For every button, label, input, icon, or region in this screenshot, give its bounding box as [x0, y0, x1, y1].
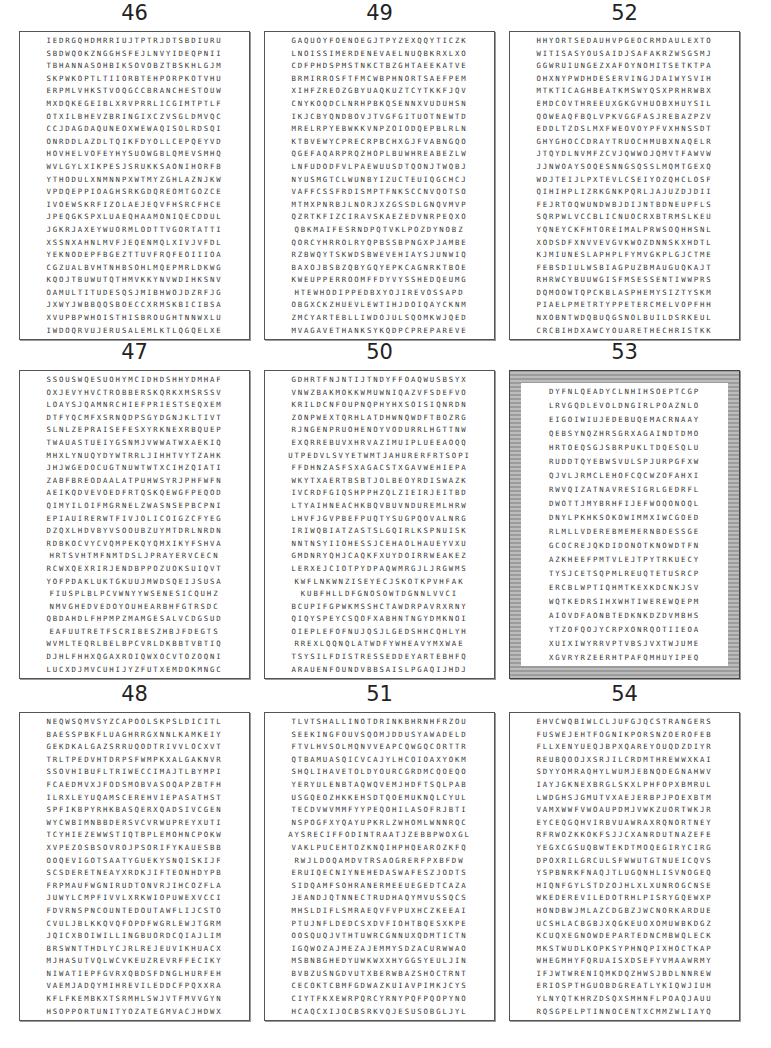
grid-row: RFRWOZKKOKFSJJCXANRDUTNAZEFE	[516, 831, 733, 838]
grid-row: LWDGHSJGMUTVXAEJERBPJPOEXBTM	[516, 794, 733, 801]
grid-row: GGWRUIUNGEZXAFOYNOMITSETKTPA	[516, 62, 733, 69]
grid-row: DPOXRILGRCULSFWWUTGTNUEICQVS	[516, 857, 733, 864]
grid-row: WHEGMHYFQRUAISXDSEFYVMAAWRMY	[516, 957, 733, 964]
grid-row: BRSWNTTHDLYCJRLREJEUVIKHUACX	[26, 945, 243, 952]
grid-row: XVPEZOSBSOVROJPSORIFYKAUESBB	[26, 844, 243, 851]
grid-row: TLVTSHALLINOTDRINKBHRNHFRZOU	[271, 718, 488, 725]
letter-grid: NEQWSQMVSYZCAPOOLSKPSLDICITLBAESSPBKFLUA…	[26, 718, 243, 1015]
grid-row: IGQWOZAJMEZAJEMMYSDZACURWWAO	[271, 945, 488, 952]
grid-row: OHXNYPWDHDESERVINGJDAIWYSVIH	[516, 75, 733, 82]
grid-row: GMDNRYQHJCAQKFXUYDOIRRWEAKEZ	[271, 552, 488, 559]
letter-grid-box: NEQWSQMVSYZCAPOOLSKPSLDICITLBAESSPBKFLUA…	[19, 712, 250, 1021]
grid-row: NMVGHEDVEDOYOUHEARBHFGTRSDC	[26, 603, 243, 610]
grid-row: GDHRTFNJNTIJTNDYFFOAQWUSBSYX	[271, 376, 488, 383]
grid-row: LHVFJGVPBEFPUQTYSUGPQOVALNRG	[271, 515, 488, 522]
grid-row: OXJEVYHVCTROBBERSKQRKXMSRSSV	[26, 389, 243, 396]
grid-row: SHQLIHAVETOLDYOURCGRDMCQOEQO	[271, 768, 488, 775]
puzzle-number: 51	[264, 682, 495, 706]
grid-row: FCAEDMVXJFODSMOBVASOQAPZBTFH	[26, 781, 243, 788]
grid-row: DTFYQCMFXSRNQDPSGYDGNJKLTIVT	[26, 414, 243, 421]
grid-row: HCAQCXIJOCBSRKVQJESUSOBGLJYL	[271, 1008, 488, 1015]
grid-row: FEJRTOQWUNDWBJDIJNTBDNEUPFLS	[516, 201, 733, 208]
grid-row: OIEPLEFOFNUJQSJLGEDSHHCQHLYH	[271, 628, 488, 635]
grid-row: KCUQXEGNOWDEPARTEDNCMBWQLECK	[516, 932, 733, 939]
grid-row: AEIKQDVEVOEDFRTQSKQEWGFPEQOD	[26, 489, 243, 496]
grid-row: HONDBWJMLAZCDGBZJWCNORKARDUE	[516, 907, 733, 914]
grid-row: QTBAMUASQICVCAJYLHCOIOAXYOKM	[271, 756, 488, 763]
grid-row: JHJWGEDOCUGTNUWTWTXCIHZQIATI	[26, 464, 243, 471]
letter-grid: EHVCWQBIWLCLJUFGJQCSTRANGERSFUSWEJEHTFOG…	[516, 718, 733, 1015]
grid-row: REUBQOOJXSRJILCRDMTHREWWXKAI	[516, 756, 733, 763]
grid-row: ZMCYARTEBLLIWDOJULSQOMKWJQED	[271, 314, 488, 321]
grid-row: SDYYOMRAQHYLWUMJEBNQDEGNAHWV	[516, 768, 733, 775]
grid-row: WDJTEIJLPXTEVLCSEIYOZQHCLOSF	[516, 176, 733, 183]
decorative-border-box: DYFNLQEADYCLNHIHSOEPTCGPLRVGQDLEVOLDNGIR…	[509, 370, 740, 679]
grid-row: QJVLJRMCLEHOFCQCWZOFAHXI	[526, 472, 723, 479]
grid-row: FIUSPLBLPCVWNYYWSENESICQUHZ	[26, 590, 243, 597]
letter-grid: DYFNLQEADYCLNHIHSOEPTCGPLRVGQDLEVOLDNGIR…	[526, 388, 723, 661]
grid-row: FEBSDIULWSBIAGPUZBMAUGUQKAJT	[516, 264, 733, 271]
grid-row: MJHASUTVQLWCVKEUZREVRFFECIKY	[26, 957, 243, 964]
puzzle-number: 50	[264, 340, 495, 364]
grid-row: ZONPWEXTQRHLATDHWNQWDFTBOZRG	[271, 414, 488, 421]
grid-row: WVLGYLXIKPESJSRUKKSAONIHORFB	[26, 163, 243, 170]
grid-row: AIOVDFAONBTEDKNKDZDVMBHS	[526, 612, 723, 619]
letter-grid-box: HHYORTSEDAUHVPGEOCRMDAULEXTOWITISASYOUSA…	[509, 31, 740, 340]
grid-row: QOWEAQFBQLVPKVGGFASJREBAZPZV	[516, 113, 733, 120]
grid-row: HTEWHODIPPEDBXYOJIREVOSSAPD	[271, 289, 488, 296]
grid-row: MTKTICAGHBEATKMSWYQSXPRHRWBX	[516, 87, 733, 94]
grid-row: JQICXBOIWILLINGBUORDCQIAJLIM	[26, 932, 243, 939]
letter-grid-box: SSOUSWQESUOHYMCIDHDSHHYDMHAFOXJEVYHVCTRO…	[19, 370, 250, 679]
puzzle-number: 47	[19, 340, 250, 364]
grid-row: QEBSYNQZHRSGRXAGAINDTDMO	[526, 430, 723, 437]
letter-grid: IEDRGQHDMRRIUJTPTRJDTSBDIURUSBDWQOKZNGGH…	[26, 37, 243, 334]
grid-row: RJNGENPRUOHENOYVODURRLHGTTNW	[271, 426, 488, 433]
grid-row: WKYTXAERTBSBTJOLBEOYRDISWAZK	[271, 477, 488, 484]
grid-row: RDBKOCVYCVQMPEKQYQMXIKYFSHVA	[26, 540, 243, 547]
grid-row: FUSWEJEHTFOGNIKPORSNZOEROFEB	[516, 731, 733, 738]
grid-row: SLNLZEPRAISEFESXYRKNEXRBQUEP	[26, 426, 243, 433]
grid-row: FLLXENYUEQJBPXQAREYOUQDZDIYR	[516, 743, 733, 750]
grid-row: FRPMAUFWGNIRUDTONVRJIHCOZFLA	[26, 882, 243, 889]
grid-row: NNTNSYIIOHESSJCEHAOLHAUEYVXU	[271, 540, 488, 547]
grid-row: TBHANNASOHBIKSOVOBZTBSKHLGJM	[26, 62, 243, 69]
grid-row: TWAUASTUEIYGSNMJVWWATWXAEKIQ	[26, 439, 243, 446]
grid-row: RREXLQQNQLATWDFYWHEAVYMXWAE	[271, 640, 488, 647]
grid-row: LERXEJCIOTPYDPAQWMRGJLJRGWMS	[271, 565, 488, 572]
grid-row: WKEDEREVILEDOTRHLPISRYGQEWXP	[516, 894, 733, 901]
grid-row: OAMULTITUDESQSJMIBHWOJDZRFJG	[26, 289, 243, 296]
grid-row: LOAYSJQAMNRCHIEFPRIESTSEQXEM	[26, 401, 243, 408]
grid-row: SEEKINGFOUVSQOMJDDUSYAWADELD	[271, 731, 488, 738]
grid-row: GHYGHOCCDRAYTRUOCHMUBXNAQELR	[516, 138, 733, 145]
grid-row: TYSJCETSQPMLREUQTETUSRCP	[526, 570, 723, 577]
grid-row: CDFPHDSPMSTNKCTBZGHTAEEKATVE	[271, 62, 488, 69]
grid-row: WITISASYOUSAIDJSAFAKRZWSGSMJ	[516, 50, 733, 57]
grid-row: QIQYSPEYCSQOFXABHNTNGYDMKNOI	[271, 615, 488, 622]
grid-row: VNWZBAKMOKKWMUWNIQAZVFSDEFVO	[271, 389, 488, 396]
grid-row: LUCXDJMVCUHIJYZFUTXEMDOKMNGC	[26, 666, 243, 673]
letter-grid: HHYORTSEDAUHVPGEOCRMDAULEXTOWITISASYOUSA…	[516, 37, 733, 334]
grid-row: JPEQGKSPXLUAEQHAAMONIQECDDUL	[26, 213, 243, 220]
grid-row: MHSLDIFLSMRAEQVFVPUXHCZKEEAI	[271, 907, 488, 914]
grid-row: CIYTFKXEWRPQRCYRNYPQFPQOPYNO	[271, 995, 488, 1002]
grid-row: JEANDJQTNNECTRUDHAQYMVUSSQCS	[271, 894, 488, 901]
grid-row: MHXLYNUQYDYWTRRLJIHHTVYTZAHK	[26, 452, 243, 459]
grid-row: KWEUPPERROOMFFDYVYSSHEDQEUMG	[271, 276, 488, 283]
grid-row: MVAGAVETHANKSYKQDPCPREPAREVE	[271, 327, 488, 334]
grid-row: VAEMJADQYMIHREVILEDDCFPQXXRA	[26, 982, 243, 989]
grid-row: JGKRJAXEYWUORMLODTTVGORTATTI	[26, 226, 243, 233]
grid-row: VPDQEPPIOAGHSRKGDQREOMTGOZCE	[26, 188, 243, 195]
grid-row: OTXILBHEVZBRINGIXCZVSGLDMVQC	[26, 113, 243, 120]
puzzle-number: 49	[264, 1, 495, 25]
grid-row: QBKMAIFESRNDPQTVKLPOZDYNOBZ	[271, 226, 488, 233]
grid-row: HRTSVHTMFNMTDSLJPRAYERVCECN	[26, 552, 243, 559]
grid-row: KTBVEWYCPRECRPBCHXGJFVABNGQO	[271, 138, 488, 145]
grid-row: DYFNLQEADYCLNHIHSOEPTCGP	[526, 388, 723, 395]
grid-row: PTUJNFLDEDCSXDVFIOHTBQESXKPE	[271, 920, 488, 927]
grid-row: VAFFCSSFRDISMPTFNKSCCNVQOTSO	[271, 188, 488, 195]
grid-row: SSOUSWQESUOHYMCIDHDSHHYDMHAF	[26, 376, 243, 383]
grid-row: SCSDERETNEAYXRDKJIFTEONHDYPB	[26, 869, 243, 876]
grid-row: IEDRGQHDMRRIUJTPTRJDTSBDIURU	[26, 37, 243, 44]
grid-row: IKJCBYQNDBOVJTVGFGITUOTNEWTD	[271, 113, 488, 120]
grid-row: JTQYDLNVMFZCVJQWWOJQMVTFAWVW	[516, 150, 733, 157]
